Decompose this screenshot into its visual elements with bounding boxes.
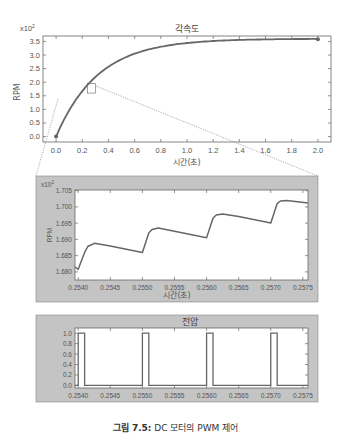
x-tick-label: 0.2575 [293, 392, 313, 399]
y-tick-label: 3.5 [30, 37, 40, 46]
x-tick-label: 0.0 [51, 146, 61, 155]
voltage-plot: 전압 0.25400.25450.25500.25550.25600.25650… [36, 315, 318, 402]
x-tick-label: 0.2555 [165, 284, 185, 291]
plot2-xlabel: 시간(초) [163, 290, 190, 300]
plot1-y-ticks: 0.00.51.01.52.02.53.03.5 [30, 37, 331, 141]
y-tick-label: 1.0 [30, 105, 40, 114]
plot1-y-multiplier: x102 [20, 23, 35, 33]
y-tick-label: 1.690 [56, 236, 73, 243]
data-marker [54, 135, 58, 139]
y-tick-label: 0.4 [63, 361, 72, 368]
x-tick-label: 0.2550 [132, 284, 152, 291]
plot1-xlabel: 시간(초) [173, 157, 200, 167]
y-tick-label: 0.5 [30, 118, 40, 127]
x-tick-label: 0.2 [77, 146, 87, 155]
x-tick-label: 0.4 [103, 146, 113, 155]
y-tick-label: 1.695 [56, 220, 73, 227]
x-tick-label: 0.8 [156, 146, 166, 155]
y-tick-label: 0.2 [63, 371, 72, 378]
x-tick-label: 0.2565 [229, 392, 249, 399]
x-tick-label: 2.0 [313, 146, 323, 155]
y-tick-label: 0.6 [63, 351, 72, 358]
x-tick-label: 0.2540 [68, 392, 88, 399]
y-tick-label: 3.0 [30, 51, 40, 60]
y-tick-label: 0.0 [63, 382, 72, 389]
x-tick-label: 0.2570 [261, 284, 281, 291]
plot1-title: 각속도 [175, 23, 199, 34]
y-tick-label: 1.685 [56, 252, 73, 259]
plot3-title: 전압 [182, 316, 198, 327]
y-tick-label: 1.680 [56, 268, 73, 275]
x-tick-label: 0.2560 [197, 284, 217, 291]
y-tick-label: 2.0 [30, 78, 40, 87]
y-tick-label: 0.8 [63, 340, 72, 347]
plot1-ylabel: RPM [13, 83, 22, 100]
y-tick-label: 0.0 [30, 132, 40, 141]
x-tick-label: 0.2545 [100, 284, 120, 291]
x-tick-label: 1.2 [208, 146, 218, 155]
x-tick-label: 0.2555 [165, 392, 185, 399]
plot3-frame [75, 328, 308, 388]
x-tick-label: 0.2565 [229, 284, 249, 291]
x-tick-label: 0.2540 [68, 284, 88, 291]
y-tick-label: 1.700 [56, 203, 73, 210]
y-tick-label: 1.0 [63, 330, 72, 337]
plot1-x-ticks: 0.00.20.40.60.81.01.21.41.61.82.0 [51, 36, 323, 155]
y-tick-label: 1.5 [30, 91, 40, 100]
x-tick-label: 1.0 [182, 146, 192, 155]
plot2-ylabel: RPM [46, 228, 53, 242]
zoomed-rpm-plot: x102 0.25400.25450.25500.25550.25600.256… [36, 176, 318, 302]
x-tick-label: 0.2550 [132, 392, 152, 399]
figure-canvas: 각속도 x102 0.00.20.40.60.81.01.21.41.61.82… [0, 0, 351, 445]
plot1-frame [43, 36, 331, 142]
x-tick-label: 0.2545 [100, 392, 120, 399]
caption-text: DC 모터의 PWM 제어 [151, 423, 238, 433]
x-tick-label: 0.6 [129, 146, 139, 155]
angular-velocity-plot: 각속도 x102 0.00.20.40.60.81.01.21.41.61.82… [13, 23, 331, 167]
x-tick-label: 0.2575 [293, 284, 313, 291]
y-tick-label: 1.705 [56, 187, 73, 194]
plot1-markers [54, 37, 320, 138]
x-tick-label: 0.2560 [197, 392, 217, 399]
x-tick-label: 1.4 [234, 146, 244, 155]
plot1-zoom-box [88, 84, 96, 94]
x-tick-label: 1.8 [287, 146, 297, 155]
x-tick-label: 0.2570 [261, 392, 281, 399]
figure-caption: 그림 7.5: DC 모터의 PWM 제어 [0, 421, 351, 434]
x-tick-label: 1.6 [260, 146, 270, 155]
y-tick-label: 2.5 [30, 64, 40, 73]
data-marker [316, 37, 320, 41]
caption-label: 그림 7.5: [113, 423, 152, 433]
